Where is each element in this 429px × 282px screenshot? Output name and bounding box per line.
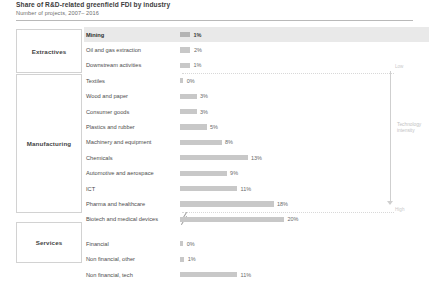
row-label: Non financial, other xyxy=(84,256,180,262)
tech-axis-line xyxy=(390,71,391,204)
row-label: Machinery and equipment xyxy=(84,139,180,145)
bar xyxy=(180,155,248,160)
group-label-extractives: Extractives xyxy=(32,48,67,55)
table-row[interactable]: Downstream activities 1% xyxy=(84,58,429,73)
table-row[interactable]: Machinery and equipment 8% xyxy=(84,135,429,150)
bar xyxy=(180,272,237,277)
bar-value: 1% xyxy=(193,32,201,38)
tech-high-label: High xyxy=(395,207,404,212)
bar-value: 0% xyxy=(187,78,195,84)
page-title: Share of R&D-related greenfield FDI by i… xyxy=(16,1,170,8)
bar xyxy=(180,186,237,191)
bar xyxy=(180,47,190,52)
row-label: Automotive and aerospace xyxy=(84,170,180,176)
table-row[interactable]: Oil and gas extraction 2% xyxy=(84,42,429,57)
bar-value: 20% xyxy=(288,216,299,222)
row-label: Non financial, tech xyxy=(84,272,180,278)
bar xyxy=(180,217,284,222)
bar-area: 1% xyxy=(180,27,429,42)
bar-value: 2% xyxy=(194,47,202,53)
tech-caption-line2: intensity xyxy=(397,128,421,134)
row-label: Plastics and rubber xyxy=(84,124,180,130)
row-label: Consumer goods xyxy=(84,109,180,115)
bar-value: 1% xyxy=(193,62,201,68)
bar xyxy=(180,241,183,246)
row-label: Biotech and medical devices xyxy=(84,216,180,222)
table-row[interactable]: ICT 11% xyxy=(84,181,429,196)
bar xyxy=(180,32,190,37)
bar xyxy=(180,63,190,68)
header-divider xyxy=(16,20,413,21)
bar-area: 0% xyxy=(180,236,429,251)
table-row[interactable]: Non financial, tech 11% xyxy=(84,267,429,282)
group-label-manufacturing: Manufacturing xyxy=(27,140,72,147)
group-box-manufacturing: Manufacturing xyxy=(16,74,82,213)
tech-caption: Technology intensity xyxy=(397,122,421,135)
technology-intensity-annotation: Low High Technology intensity xyxy=(386,60,429,215)
bar-value: 0% xyxy=(187,241,195,247)
table-row[interactable]: Financial 0% xyxy=(84,236,429,251)
bar xyxy=(180,78,183,83)
group-box-services: Services xyxy=(16,222,82,263)
row-spacer xyxy=(84,227,429,236)
row-label: ICT xyxy=(84,186,180,192)
table-row[interactable]: Pharma and healthcare 18% xyxy=(84,196,429,211)
table-row[interactable]: Automotive and aerospace 9% xyxy=(84,166,429,181)
bar xyxy=(180,94,197,99)
page-subtitle: Number of projects, 2007– 2016 xyxy=(16,10,99,16)
arrow-down-icon xyxy=(387,201,393,205)
table-row[interactable]: Biotech and medical devices 20% xyxy=(84,212,429,227)
bar-value: 3% xyxy=(200,109,208,115)
bar-area: 2% xyxy=(180,42,429,57)
group-label-services: Services xyxy=(36,239,63,246)
row-label: Downstream activities xyxy=(84,62,180,68)
bar-value: 1% xyxy=(188,256,196,262)
table-row[interactable]: Mining 1% xyxy=(84,27,429,42)
row-label: Mining xyxy=(84,32,180,38)
bar xyxy=(180,171,227,176)
bar-rows: Mining 1% Oil and gas extraction 2% Down… xyxy=(84,27,429,282)
bar-value: 8% xyxy=(225,139,233,145)
group-box-extractives: Extractives xyxy=(16,29,82,73)
bar-value: 5% xyxy=(210,124,218,130)
row-label: Financial xyxy=(84,241,180,247)
table-row[interactable]: Plastics and rubber 5% xyxy=(84,119,429,134)
bar-area: 1% xyxy=(180,251,429,266)
row-label: Oil and gas extraction xyxy=(84,47,180,53)
table-row[interactable]: Consumer goods 3% xyxy=(84,104,429,119)
bar-value: 11% xyxy=(241,186,252,192)
bar-value: 3% xyxy=(200,93,208,99)
table-row[interactable]: Textiles 0% xyxy=(84,73,429,88)
table-row[interactable]: Wood and paper 3% xyxy=(84,89,429,104)
bar-value: 13% xyxy=(251,155,262,161)
row-label: Pharma and healthcare xyxy=(84,201,180,207)
bar xyxy=(180,201,274,206)
bar xyxy=(180,109,197,114)
row-label: Chemicals xyxy=(84,155,180,161)
row-label: Wood and paper xyxy=(84,93,180,99)
bar-value: 11% xyxy=(241,272,252,278)
table-row[interactable]: Non financial, other 1% xyxy=(84,251,429,266)
bar xyxy=(180,257,184,262)
bar xyxy=(180,140,222,145)
bar xyxy=(180,124,207,129)
bar-value: 18% xyxy=(277,201,288,207)
bar-value: 9% xyxy=(230,170,238,176)
tech-low-label: Low xyxy=(395,64,403,69)
bar-area: 11% xyxy=(180,267,429,282)
table-row[interactable]: Chemicals 13% xyxy=(84,150,429,165)
row-label: Textiles xyxy=(84,78,180,84)
